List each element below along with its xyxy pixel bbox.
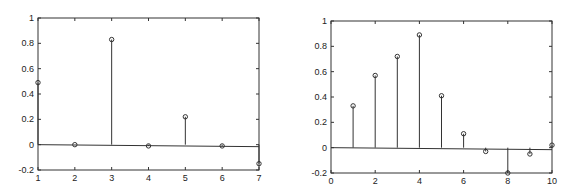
x-tick-label: 6 <box>461 176 466 186</box>
x-tick-label: 1 <box>35 173 40 183</box>
y-tick-label: -0.2 <box>18 165 34 175</box>
y-tick-label: 1 <box>29 13 34 23</box>
x-tick-label: 6 <box>220 173 225 183</box>
figure: -0.200.20.40.60.811234567 -0.200.20.40.6… <box>0 0 575 193</box>
y-tick-label: 0.4 <box>314 92 327 102</box>
y-tick-label: 0.2 <box>21 114 34 124</box>
x-tick-label: 3 <box>109 173 114 183</box>
y-tick-label: 0 <box>322 143 327 153</box>
y-tick-label: 1 <box>322 16 327 26</box>
y-tick-label: 0.8 <box>21 38 34 48</box>
y-tick-label: 0.4 <box>21 89 34 99</box>
x-tick-label: 4 <box>146 173 151 183</box>
x-tick-label: 0 <box>328 176 333 186</box>
x-tick-label: 5 <box>183 173 188 183</box>
x-tick-label: 4 <box>417 176 422 186</box>
y-tick-label: -0.2 <box>311 168 327 178</box>
axes-box <box>38 18 259 170</box>
y-tick-label: 0.2 <box>314 117 327 127</box>
y-tick-label: 0 <box>29 140 34 150</box>
stem-plot-left: -0.200.20.40.60.811234567 <box>18 13 261 183</box>
y-tick-label: 0.8 <box>314 41 327 51</box>
x-tick-label: 8 <box>505 176 510 186</box>
stem-plot-right: -0.200.20.40.60.810246810 <box>311 16 557 186</box>
y-tick-label: 0.6 <box>21 64 34 74</box>
zero-baseline <box>331 148 552 150</box>
x-tick-label: 7 <box>256 173 261 183</box>
x-tick-label: 2 <box>373 176 378 186</box>
x-tick-label: 10 <box>547 176 557 186</box>
x-tick-label: 2 <box>72 173 77 183</box>
y-tick-label: 0.6 <box>314 67 327 77</box>
